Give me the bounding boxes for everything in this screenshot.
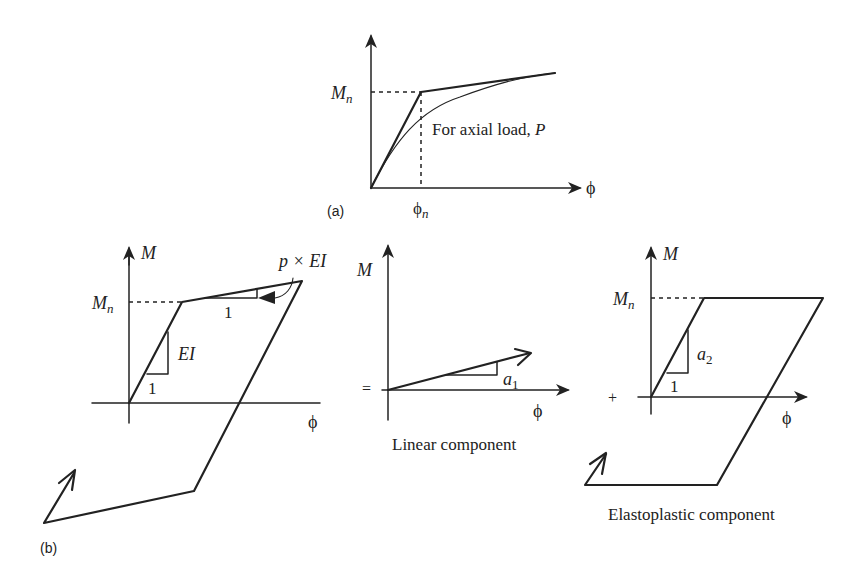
panel-b-elastoplastic: M ϕ Mn a2 1 Elastoplastic component [585, 244, 823, 524]
linear-x-axis-label: ϕ [533, 401, 542, 421]
plus-sign: + [608, 389, 617, 406]
linear-caption: Linear component [392, 435, 516, 454]
total-elastic-run-label: 1 [148, 379, 157, 398]
panel-a-phin-label: ϕn [413, 199, 428, 221]
elastoplastic-y-axis-label: M [662, 244, 679, 264]
total-y-axis-label: M [140, 243, 157, 263]
total-hysteresis-loop [44, 281, 302, 523]
panel-a-curve-note: For axial load, P [432, 120, 545, 139]
total-hardening-slope-label: p × EI [277, 251, 327, 271]
panel-b-linear: M ϕ a1 Linear component [356, 246, 568, 454]
total-reload-arrowhead [59, 470, 75, 490]
equals-sign: = [362, 380, 371, 397]
elastoplastic-x-axis-label: ϕ [782, 408, 791, 428]
panel-a-mn-label: Mn [330, 83, 353, 106]
total-elastic-slope-triangle [147, 332, 168, 374]
total-elastic-slope-label: EI [177, 344, 196, 364]
elastoplastic-slope-label: a2 [697, 344, 713, 367]
elastoplastic-caption: Elastoplastic component [608, 505, 775, 524]
total-x-axis-label: ϕ [308, 412, 317, 432]
total-hardening-run-label: 1 [224, 303, 233, 322]
elastoplastic-hysteresis-loop [585, 298, 823, 485]
linear-slope-label: a1 [503, 369, 519, 392]
elastoplastic-mn-label: Mn [612, 289, 635, 312]
panel-a-label: (a) [327, 203, 344, 219]
elastoplastic-slope-triangle [667, 330, 688, 373]
panel-b-total: M ϕ Mn EI 1 1 p × EI (b) [40, 243, 327, 556]
panel-b-label: (b) [40, 540, 57, 556]
moment-curvature-diagram: ϕ Mn ϕn For axial load, P (a) M ϕ Mn EI … [0, 0, 865, 580]
panel-a: ϕ Mn ϕn For axial load, P (a) [327, 36, 595, 221]
panel-a-x-axis-label: ϕ [586, 178, 595, 198]
total-hardening-pointer-arrowhead [258, 291, 275, 304]
linear-y-axis-label: M [356, 260, 373, 280]
total-mn-label: Mn [91, 293, 114, 316]
total-hardening-leader-line [275, 278, 293, 298]
elastoplastic-run-label: 1 [670, 377, 679, 396]
